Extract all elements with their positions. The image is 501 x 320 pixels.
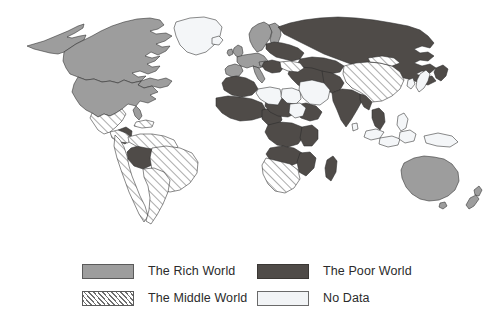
legend-item-poor-world: The Poor World [257,262,412,280]
world-map-graphic [0,0,501,250]
world-map-area [0,0,501,250]
rich-world-swatch-icon [82,264,134,279]
legend-item-middle-world: The Middle World [82,289,247,307]
legend-label-rich-world: The Rich World [148,264,235,279]
legend-column-right: The Poor World No Data [257,262,412,316]
legend-column-left: The Rich World The Middle World [82,262,247,316]
poor-world-swatch-icon [257,264,309,279]
legend-label-no-data: No Data [323,291,370,306]
middle-world-swatch-icon [82,291,134,306]
world-map-figure: The Rich World The Middle World The Poor… [0,0,501,320]
no-data-swatch-icon [257,291,309,306]
legend-item-rich-world: The Rich World [82,262,247,280]
map-legend: The Rich World The Middle World The Poor… [0,262,501,320]
legend-item-no-data: No Data [257,289,412,307]
legend-label-poor-world: The Poor World [323,264,412,279]
legend-label-middle-world: The Middle World [148,291,247,306]
